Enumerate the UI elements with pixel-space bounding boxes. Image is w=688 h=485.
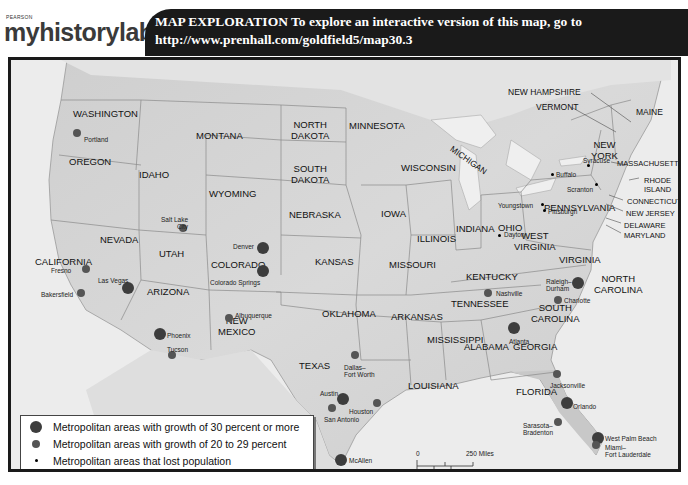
state-label-south-carolina: SOUTH CAROLINA bbox=[531, 302, 580, 324]
city-marker-bakersfield[interactable] bbox=[77, 289, 85, 297]
city-label-tucson: Tucson bbox=[167, 346, 188, 353]
city-marker-buffalo[interactable] bbox=[551, 173, 554, 176]
state-label-maine: MAINE bbox=[636, 107, 663, 118]
city-marker-colorado-springs[interactable] bbox=[257, 265, 269, 277]
header: PEARSON myhistorylab MAP EXPLORATION To … bbox=[0, 0, 688, 56]
city-marker-denver[interactable] bbox=[257, 242, 269, 254]
city-marker-phoenix[interactable] bbox=[154, 328, 166, 340]
city-marker-houston[interactable] bbox=[373, 399, 381, 407]
city-label-pittsburgh: Pittsburgh bbox=[548, 208, 577, 215]
legend-label: Metropolitan areas that lost population bbox=[53, 455, 231, 467]
state-label-montana: MONTANA bbox=[196, 130, 243, 141]
city-marker-albuquerque[interactable] bbox=[225, 314, 233, 322]
city-marker-atlanta[interactable] bbox=[508, 322, 520, 334]
city-marker-miami-fort-lauderdale[interactable] bbox=[592, 441, 600, 449]
city-marker-fresno[interactable] bbox=[82, 265, 90, 273]
city-marker-portland[interactable] bbox=[73, 129, 81, 137]
state-label-virginia: VIRGINIA bbox=[559, 254, 601, 265]
state-label-oregon: OREGON bbox=[69, 156, 111, 167]
city-label-salt-lake-city: Salt Lake City bbox=[161, 216, 188, 230]
city-label-charlotte: Charlotte bbox=[564, 297, 590, 304]
legend-item-growth-30-plus: Metropolitan areas with growth of 30 per… bbox=[29, 419, 299, 434]
city-label-nashville: Nashville bbox=[496, 290, 522, 297]
map-legend: Metropolitan areas with growth of 30 per… bbox=[20, 415, 314, 472]
state-label-nebraska: NEBRASKA bbox=[289, 209, 341, 220]
banner-url-link[interactable]: http://www.prenhall.com/goldfield5/map30… bbox=[155, 32, 412, 48]
city-marker-charlotte[interactable] bbox=[554, 296, 562, 304]
state-label-rhode-island: RHODE ISLAND bbox=[644, 176, 671, 194]
state-label-north-dakota: NORTH DAKOTA bbox=[291, 119, 329, 141]
state-label-wyoming: WYOMING bbox=[209, 188, 257, 199]
state-label-alabama: ALABAMA bbox=[464, 341, 509, 352]
city-label-bakersfield: Bakersfield bbox=[41, 291, 73, 298]
myhistorylab-logo[interactable]: PEARSON myhistorylab bbox=[4, 14, 144, 50]
city-label-denver: Denver bbox=[233, 243, 254, 250]
city-label-sarasota-bradenton: Sarasota– Bradenton bbox=[523, 422, 553, 436]
city-label-houston: Houston bbox=[349, 408, 373, 415]
banner-title: MAP EXPLORATION To explore an interactiv… bbox=[155, 14, 582, 30]
state-label-washington: WASHINGTON bbox=[73, 108, 138, 119]
city-label-san-antonio: San Antonio bbox=[324, 416, 359, 423]
state-label-utah: UTAH bbox=[159, 248, 184, 259]
state-label-indiana: INDIANA bbox=[456, 223, 495, 234]
city-label-las-vegas: Las Vegas bbox=[98, 277, 128, 284]
legend-item-growth-20-29: Metropolitan areas with growth of 20 to … bbox=[29, 436, 286, 451]
scale-miles-label: 250 Miles bbox=[466, 450, 494, 457]
city-label-albuquerque: Albuquerque bbox=[235, 312, 272, 319]
city-marker-san-antonio[interactable] bbox=[328, 404, 336, 412]
state-label-massachusetts: MASSACHUSETTS bbox=[617, 158, 681, 169]
scale-bar: 0 250 Miles 0 250 Kilometers bbox=[416, 450, 526, 472]
city-marker-jacksonville[interactable] bbox=[553, 370, 561, 378]
state-label-wisconsin: WISCONSIN bbox=[401, 162, 456, 173]
state-label-louisiana: LOUISIANA bbox=[408, 380, 459, 391]
city-marker-austin[interactable] bbox=[337, 393, 349, 405]
city-marker-youngstown[interactable] bbox=[541, 203, 544, 206]
state-label-vermont: VERMONT bbox=[536, 102, 579, 113]
city-marker-sarasota-bradenton[interactable] bbox=[554, 418, 562, 426]
us-map: WASHINGTON OREGON IDAHO MONTANA WYOMING … bbox=[8, 57, 681, 472]
legend-item-lost-population: Metropolitan areas that lost population bbox=[29, 453, 231, 468]
state-label-illinois: ILLINOIS bbox=[417, 233, 456, 244]
city-marker-nashville[interactable] bbox=[484, 289, 492, 297]
state-label-idaho: IDAHO bbox=[139, 169, 169, 180]
brand-name: myhistorylab bbox=[4, 18, 154, 47]
state-label-arizona: ARIZONA bbox=[147, 286, 189, 297]
city-label-dallas-fort-worth: Dallas– Fort Worth bbox=[344, 364, 375, 378]
city-label-colorado-springs: Colorado Springs bbox=[210, 279, 260, 286]
state-label-connecticut: CONNECTICUT bbox=[627, 196, 681, 207]
map-exploration-banner: MAP EXPLORATION To explore an interactiv… bbox=[145, 9, 688, 56]
city-label-dayton: Dayton bbox=[504, 231, 525, 238]
state-label-maryland: MARYLAND bbox=[624, 230, 666, 241]
city-label-buffalo: Buffalo bbox=[556, 171, 576, 178]
city-marker-pittsburgh[interactable] bbox=[543, 209, 546, 212]
city-marker-dayton[interactable] bbox=[498, 234, 501, 237]
city-label-mcallen: McAllen bbox=[349, 457, 372, 464]
medium-dot-icon bbox=[29, 440, 43, 448]
city-label-fresno: Fresno bbox=[51, 267, 71, 274]
legend-label: Metropolitan areas with growth of 20 to … bbox=[53, 438, 286, 450]
state-label-oklahoma: OKLAHOMA bbox=[322, 308, 376, 319]
city-marker-raleigh-durham[interactable] bbox=[572, 277, 584, 289]
state-label-kansas: KANSAS bbox=[315, 256, 354, 267]
city-label-west-palm-beach: West Palm Beach bbox=[605, 435, 657, 442]
state-label-south-dakota: SOUTH DAKOTA bbox=[291, 163, 329, 185]
city-label-youngstown: Youngstown bbox=[498, 202, 533, 209]
city-marker-dallas-fort-worth[interactable] bbox=[351, 351, 359, 359]
city-marker-mcallen[interactable] bbox=[335, 454, 347, 466]
city-label-scranton: Scranton bbox=[567, 186, 593, 193]
city-marker-orlando[interactable] bbox=[561, 397, 573, 409]
state-label-nevada: NEVADA bbox=[100, 234, 138, 245]
city-label-austin: Austin bbox=[320, 390, 338, 397]
city-marker-scranton[interactable] bbox=[595, 183, 598, 186]
city-label-atlanta: Atlanta bbox=[509, 338, 529, 345]
large-dot-icon bbox=[29, 421, 43, 433]
scale-miles-zero: 0 bbox=[416, 450, 420, 457]
state-label-iowa: IOWA bbox=[381, 208, 406, 219]
city-label-syracuse: Syracuse bbox=[583, 157, 610, 164]
state-label-missouri: MISSOURI bbox=[389, 259, 436, 270]
state-label-minnesota: MINNESOTA bbox=[349, 120, 405, 131]
state-label-new-hampshire: NEW HAMPSHIRE bbox=[508, 87, 581, 98]
state-label-texas: TEXAS bbox=[299, 360, 330, 371]
small-dot-icon bbox=[29, 459, 43, 462]
city-label-orlando: Orlando bbox=[573, 403, 596, 410]
